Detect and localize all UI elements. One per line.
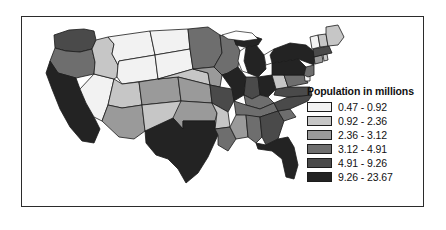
legend-label-1: 0.47 - 0.92	[338, 101, 387, 113]
legend-item[interactable]: 0.92 - 2.36	[307, 114, 423, 128]
legend-item[interactable]: 3.12 - 4.91	[307, 142, 423, 156]
state-florida[interactable]	[256, 137, 298, 179]
legend-label-3: 2.36 - 3.12	[338, 129, 387, 141]
state-washington[interactable]	[54, 29, 96, 52]
state-colorado[interactable]	[139, 77, 181, 105]
legend-item[interactable]: 9.26 - 23.67	[307, 170, 423, 184]
legend-swatch-3	[307, 130, 332, 140]
figure-frame: Population in millions 0.47 - 0.92 0.92 …	[21, 16, 424, 207]
legend-swatch-1	[307, 102, 332, 112]
state-utah[interactable]	[108, 79, 142, 108]
legend-item[interactable]: 4.91 - 9.26	[307, 156, 423, 170]
map-legend: Population in millions 0.47 - 0.92 0.92 …	[307, 85, 423, 184]
state-indiana[interactable]	[244, 77, 260, 99]
legend-title: Population in millions	[307, 85, 423, 98]
legend-swatch-4	[307, 144, 332, 154]
legend-label-5: 4.91 - 9.26	[338, 157, 387, 169]
state-maine[interactable]	[326, 25, 344, 46]
legend-swatch-5	[307, 158, 332, 168]
state-arizona[interactable]	[102, 105, 145, 139]
legend-label-2: 0.92 - 2.36	[338, 115, 387, 127]
figure-canvas: Population in millions 0.47 - 0.92 0.92 …	[0, 0, 446, 230]
legend-label-6: 9.26 - 23.67	[338, 171, 393, 183]
state-alabama[interactable]	[246, 115, 262, 143]
state-texas[interactable]	[145, 118, 218, 183]
legend-item[interactable]: 2.36 - 3.12	[307, 128, 423, 142]
legend-swatch-2	[307, 116, 332, 126]
choropleth-map: Population in millions 0.47 - 0.92 0.92 …	[22, 17, 425, 208]
legend-label-4: 3.12 - 4.91	[338, 143, 387, 155]
legend-item[interactable]: 0.47 - 0.92	[307, 100, 423, 114]
legend-swatch-6	[307, 172, 332, 182]
